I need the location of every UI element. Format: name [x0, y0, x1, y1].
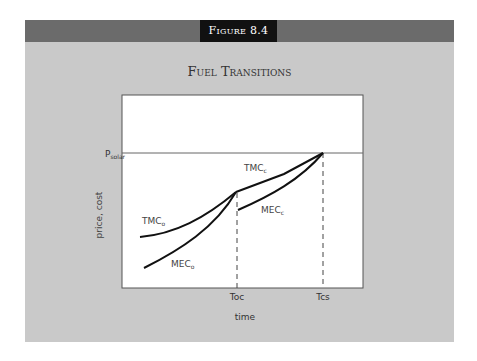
tmc-c-label: TMCc — [243, 163, 267, 174]
y-axis-label: price, cost — [94, 191, 104, 238]
tcs-tick-label: Tcs — [315, 292, 330, 302]
chart-svg: Psolar price, cost Toc Tcs time TMCo MEC… — [0, 0, 477, 361]
x-axis-label: time — [235, 312, 256, 322]
mec-c-label: MECc — [261, 205, 284, 216]
plot-area — [122, 95, 363, 288]
toc-tick-label: Toc — [229, 292, 244, 302]
